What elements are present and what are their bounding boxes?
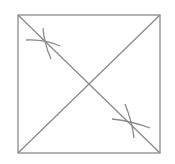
lower-right-arc-mark xyxy=(112,104,150,138)
upper-left-arc-mark xyxy=(26,28,60,59)
square-diagonals-diagram xyxy=(0,0,175,164)
